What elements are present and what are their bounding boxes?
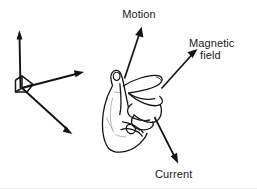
label-motion: Motion — [113, 8, 165, 20]
middle-finger — [123, 75, 162, 99]
label-magnetic-field-line1: Magnetic — [189, 37, 234, 49]
figure-container: Motion Magnetic field Current — [0, 0, 257, 189]
hand-drawing — [102, 70, 162, 152]
label-current: Current — [155, 168, 192, 180]
figure-artwork — [0, 0, 257, 189]
axis-lower-right-current — [22, 88, 73, 134]
thumb — [121, 122, 143, 136]
motion-arrow — [125, 27, 144, 79]
current-arrow — [155, 117, 179, 164]
label-magnetic-field-line2: field — [189, 49, 234, 61]
label-magnetic-field: Magnetic field — [189, 37, 234, 61]
bottom-divider — [0, 188, 257, 189]
axis-triad — [16, 30, 85, 134]
